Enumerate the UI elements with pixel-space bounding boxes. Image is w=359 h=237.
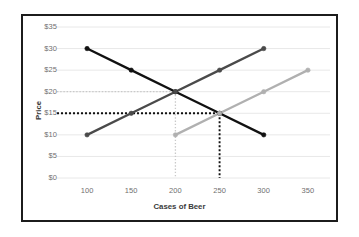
gridlines (57, 27, 330, 178)
x-tick-label: 200 (155, 186, 195, 195)
y-tick-label: $10 (13, 130, 57, 139)
y-tick-label: $5 (13, 151, 57, 160)
chart-screenshot: $0$5$10$15$20$25$30$35 10015020025030035… (0, 0, 359, 237)
y-tick-label: $30 (13, 44, 57, 53)
y-tick-label: $0 (13, 173, 57, 182)
data-point (85, 133, 89, 137)
data-point (262, 46, 266, 50)
y-tick-label: $25 (13, 65, 57, 74)
data-point (262, 133, 266, 137)
data-point (129, 68, 133, 72)
x-tick-label: 300 (244, 186, 284, 195)
data-point (262, 90, 266, 94)
x-tick-label: 250 (200, 186, 240, 195)
x-axis-title: Cases of Beer (0, 202, 359, 211)
data-point (173, 133, 177, 137)
data-point (306, 68, 310, 72)
data-point (85, 46, 89, 50)
y-axis-title: Price (34, 101, 43, 120)
data-point (129, 111, 133, 115)
y-tick-label: $35 (13, 22, 57, 31)
y-tick-label: $20 (13, 87, 57, 96)
data-point (217, 111, 221, 115)
x-tick-label: 150 (111, 186, 151, 195)
data-point (217, 68, 221, 72)
x-tick-label: 350 (288, 186, 328, 195)
data-point (173, 90, 177, 94)
x-tick-label: 100 (67, 186, 107, 195)
